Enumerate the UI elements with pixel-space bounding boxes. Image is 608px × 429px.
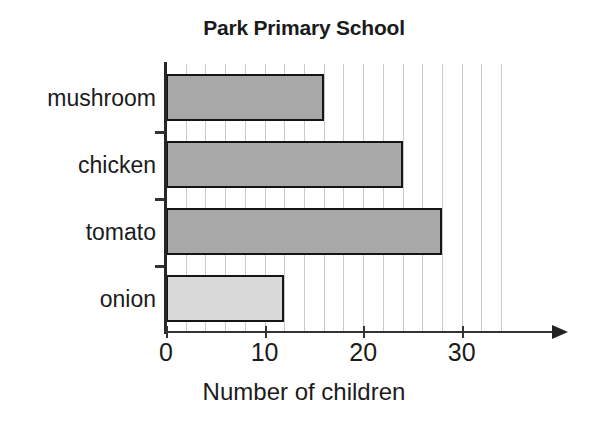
x-tick-label-20: 20: [349, 340, 377, 365]
y-tick: [155, 131, 165, 134]
plot-area: [166, 64, 511, 332]
x-axis-title: Number of children: [0, 378, 608, 406]
bars-layer: [166, 64, 511, 332]
y-tick: [155, 265, 165, 268]
x-tick-30: [462, 326, 464, 338]
y-tick-label-mushroom: mushroom: [47, 86, 156, 109]
bar-chart: Park Primary School 0102030 mushroomchic…: [0, 0, 608, 429]
x-tick-label-10: 10: [251, 340, 279, 365]
x-tick-10: [265, 326, 267, 338]
x-tick-20: [363, 326, 365, 338]
chart-title: Park Primary School: [0, 16, 608, 40]
y-tick: [155, 198, 165, 201]
bar-onion: [166, 275, 284, 322]
bar-tomato: [166, 208, 442, 255]
x-axis-line: [164, 331, 559, 333]
x-axis-arrow-icon: [552, 325, 568, 339]
y-tick-label-chicken: chicken: [78, 153, 156, 176]
x-tick-label-0: 0: [159, 340, 173, 365]
bar-mushroom: [166, 74, 324, 121]
bar-chicken: [166, 141, 403, 188]
x-tick-label-30: 30: [448, 340, 476, 365]
x-tick-0: [166, 326, 168, 338]
y-tick-label-tomato: tomato: [86, 220, 156, 243]
y-tick-label-onion: onion: [100, 287, 156, 310]
